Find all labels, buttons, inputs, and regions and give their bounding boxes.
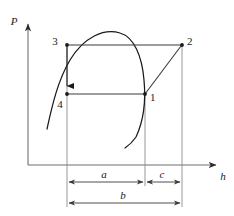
x-axis-label: h bbox=[220, 170, 226, 182]
state-point-3-marker[interactable] bbox=[65, 43, 69, 47]
text-labels: P h 1 2 3 4 a c b bbox=[10, 15, 227, 201]
ph-diagram: P h 1 2 3 4 a c b bbox=[0, 0, 234, 216]
cycle-process-lines bbox=[67, 45, 182, 94]
dimension-label-a: a bbox=[101, 168, 107, 180]
dimension-label-b: b bbox=[120, 189, 126, 201]
extension-lines bbox=[67, 45, 182, 207]
state-point-label-1: 1 bbox=[150, 91, 156, 103]
state-point-label-4: 4 bbox=[57, 98, 63, 110]
state-point-markers bbox=[65, 43, 184, 96]
line-1-to-2 bbox=[145, 46, 181, 94]
state-point-label-2: 2 bbox=[187, 35, 193, 47]
saturation-dome-curve bbox=[47, 32, 145, 148]
state-point-4-marker[interactable] bbox=[65, 92, 69, 96]
state-point-2-marker[interactable] bbox=[180, 43, 184, 47]
y-axis-label: P bbox=[10, 15, 18, 27]
dimension-label-c: c bbox=[160, 168, 165, 180]
diagram-canvas: P h 1 2 3 4 a c b bbox=[0, 0, 234, 216]
saturation-dome bbox=[47, 32, 145, 148]
state-point-label-3: 3 bbox=[52, 35, 58, 47]
state-point-1-marker[interactable] bbox=[143, 92, 147, 96]
